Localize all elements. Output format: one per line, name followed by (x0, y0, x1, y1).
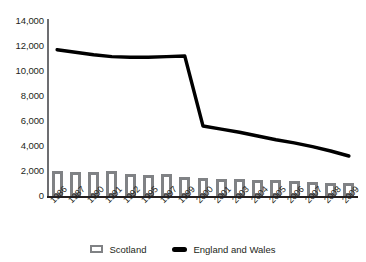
x-axis-labels: 1986198719901991199219951997199920002001… (48, 198, 358, 242)
y-tick-label: 8,000 (0, 91, 44, 101)
y-tick-label: 2,000 (0, 166, 44, 176)
line-series-england-and-wales (48, 21, 358, 196)
legend-label-england-and-wales: England and Wales (193, 244, 275, 255)
y-axis-labels: 14,00012,00010,0008,0006,0004,0002,0000 (0, 0, 44, 262)
plot-area (48, 21, 358, 196)
y-tick-label: 4,000 (0, 141, 44, 151)
legend-item-scotland: Scotland (90, 244, 146, 255)
y-tick-label: 6,000 (0, 116, 44, 126)
y-tick-label: 14,000 (0, 16, 44, 26)
legend-label-scotland: Scotland (109, 244, 146, 255)
legend-bar-swatch-icon (90, 245, 103, 253)
chart-container: 14,00012,00010,0008,0006,0004,0002,0000 … (0, 0, 366, 262)
y-tick-label: 0 (0, 191, 44, 201)
y-tick-label: 10,000 (0, 66, 44, 76)
legend-item-england-and-wales: England and Wales (172, 244, 275, 255)
legend-line-swatch-icon (172, 247, 187, 252)
y-tick-label: 12,000 (0, 41, 44, 51)
chart-legend: Scotland England and Wales (0, 240, 366, 258)
